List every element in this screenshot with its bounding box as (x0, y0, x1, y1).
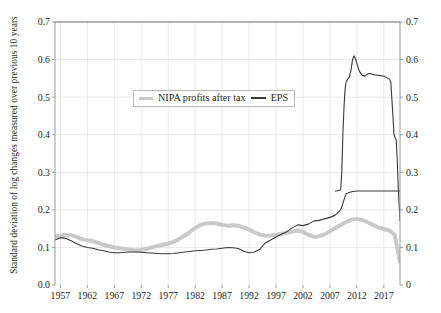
y-tick-label-right: 0.3 (406, 167, 418, 178)
x-tick-label: 1992 (239, 290, 259, 301)
y-tick-label-left: 0.3 (38, 167, 50, 178)
y-tick-label-left: 0.0 (38, 279, 50, 290)
x-tick-label: 1977 (158, 290, 178, 301)
x-tick-label: 1982 (185, 290, 205, 301)
y-tick-label-left: 0.1 (38, 242, 50, 253)
y-tick-label-right: 0.7 (406, 16, 418, 27)
y-tick-label-left: 0.4 (38, 129, 50, 140)
x-tick-label: 2012 (347, 290, 367, 301)
y-tick-label-right: 0.2 (406, 204, 418, 215)
x-tick-label: 1972 (131, 290, 151, 301)
legend-swatch-eps (251, 97, 266, 98)
y-axis-title: Standard deviation of log changes measur… (9, 0, 19, 295)
series-line-nipa-profits-after-tax (55, 219, 400, 262)
chart-figure: Standard deviation of log changes measur… (0, 0, 441, 313)
x-tick-label: 1967 (105, 290, 125, 301)
chart-legend: NIPA profits after tax EPS (133, 90, 295, 107)
y-tick-label-left: 0.7 (38, 16, 50, 27)
y-tick-label-right: 0.6 (406, 54, 418, 65)
x-tick-label: 1957 (51, 290, 71, 301)
y-tick-label-left: 0.6 (38, 54, 50, 65)
x-tick-label: 2007 (320, 290, 340, 301)
legend-label-eps: EPS (271, 93, 289, 103)
legend-swatch-nipa (139, 97, 153, 100)
y-tick-label-right: 0.4 (406, 129, 418, 140)
y-tick-label-right: 0.1 (406, 242, 418, 253)
x-tick-label: 2017 (374, 290, 394, 301)
chart-canvas (55, 22, 400, 285)
x-tick-label: 1987 (212, 290, 232, 301)
x-tick-label: 2002 (293, 290, 313, 301)
y-tick-label-left: 0.5 (38, 92, 50, 103)
y-tick-label-left: 0.2 (38, 204, 50, 215)
y-tick-label-right: 0 (406, 279, 411, 290)
y-tick-label-right: 0.5 (406, 92, 418, 103)
legend-label-nipa: NIPA profits after tax (158, 93, 246, 103)
x-tick-label: 1997 (266, 290, 286, 301)
plot-area (55, 22, 400, 285)
x-tick-label: 1962 (78, 290, 98, 301)
